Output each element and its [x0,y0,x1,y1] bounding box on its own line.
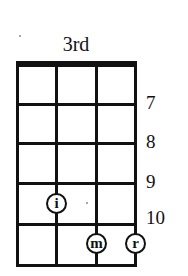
finger-index-marker: i [46,193,67,214]
string-line-2 [55,61,58,266]
fret-number: 7 [146,92,156,114]
finger-ring-marker: r [125,233,146,254]
fret-number: 8 [146,131,156,153]
fret-number: 9 [146,171,156,193]
fret-line-4 [16,223,137,226]
top-bar [16,61,137,67]
fret-line-2 [16,142,137,145]
finger-middle-marker: m [86,233,107,254]
fret-line-5 [16,264,137,267]
fret-line-1 [16,103,137,106]
string-line-1 [16,61,19,266]
fret-line-3 [16,182,137,185]
scan-speck [19,35,21,37]
fret-number: 10 [146,207,165,229]
scan-speck [86,202,88,204]
position-label: 3rd [0,33,152,56]
